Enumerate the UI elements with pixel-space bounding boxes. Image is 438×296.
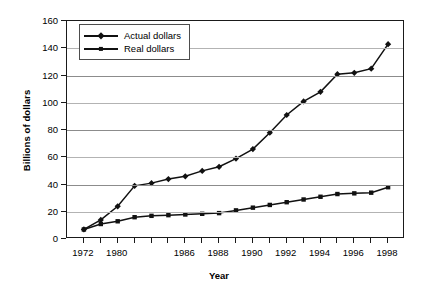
data-point-marker	[182, 173, 188, 179]
x-axis-title: Year	[0, 270, 438, 281]
x-tick-mark	[353, 238, 354, 243]
gridline	[67, 157, 403, 158]
series-line	[84, 44, 388, 229]
gridline	[67, 76, 403, 77]
legend-label: Real dollars	[124, 43, 174, 54]
x-tick-mark	[336, 238, 337, 243]
data-point-marker	[335, 192, 339, 196]
x-tick-mark	[269, 238, 270, 243]
data-point-marker	[285, 200, 289, 204]
y-tick-label: 100	[6, 96, 58, 107]
y-tick-label: 80	[6, 124, 58, 135]
data-point-marker	[386, 185, 390, 189]
x-tick-label: 1998	[377, 247, 398, 258]
x-tick-label: 1980	[106, 247, 127, 258]
data-point-marker	[369, 190, 373, 194]
x-tick-mark	[303, 238, 304, 243]
x-tick-mark	[370, 238, 371, 243]
x-tick-mark	[83, 238, 84, 243]
gridline	[67, 130, 403, 131]
data-point-marker	[165, 176, 171, 182]
gridline	[67, 103, 403, 104]
y-tick-label: 40	[6, 178, 58, 189]
chart-legend: Actual dollars Real dollars	[79, 24, 190, 60]
legend-item-actual-dollars: Actual dollars	[84, 29, 181, 42]
y-tick-label: 160	[6, 15, 58, 26]
data-point-marker	[199, 168, 205, 174]
x-tick-mark	[252, 238, 253, 243]
x-tick-mark	[320, 238, 321, 243]
data-point-marker	[183, 212, 187, 216]
x-axis-tick-labels: 197219801986198819901992199419961998	[0, 247, 438, 261]
y-tick-label: 120	[6, 69, 58, 80]
x-tick-label: 1996	[343, 247, 364, 258]
x-tick-label: 1990	[241, 247, 262, 258]
data-point-marker	[116, 219, 120, 223]
x-tick-mark	[387, 238, 388, 243]
data-point-marker	[318, 195, 322, 199]
x-tick-label: 1986	[174, 247, 195, 258]
x-tick-label: 1992	[275, 247, 296, 258]
gridline	[67, 212, 403, 213]
data-point-marker	[352, 191, 356, 195]
gridline	[67, 185, 403, 186]
legend-item-real-dollars: Real dollars	[84, 42, 181, 55]
data-point-marker	[268, 203, 272, 207]
data-point-marker	[99, 222, 103, 226]
data-point-marker	[82, 227, 86, 231]
x-tick-mark	[201, 238, 202, 243]
x-tick-mark	[235, 238, 236, 243]
x-tick-mark	[100, 238, 101, 243]
y-tick-label: 20	[6, 205, 58, 216]
x-tick-mark	[151, 238, 152, 243]
data-point-marker	[149, 214, 153, 218]
data-point-marker	[251, 205, 255, 209]
x-tick-mark	[134, 238, 135, 243]
data-point-marker	[132, 215, 136, 219]
legend-label: Actual dollars	[124, 30, 181, 41]
x-tick-label: 1972	[72, 247, 93, 258]
legend-diamond-marker-icon	[84, 30, 118, 41]
data-point-marker	[216, 164, 222, 170]
legend-square-marker-icon	[84, 43, 118, 54]
y-tick-label: 140	[6, 42, 58, 53]
x-tick-mark	[117, 238, 118, 243]
x-tick-mark	[184, 238, 185, 243]
x-tick-mark	[218, 238, 219, 243]
chart-figure: Billions of dollars 02040608010012014016…	[0, 0, 438, 296]
y-axis-ticks: 020406080100120140160	[0, 20, 66, 238]
x-tick-mark	[167, 238, 168, 243]
y-tick-label: 0	[6, 233, 58, 244]
x-axis-ticks	[66, 238, 404, 246]
x-tick-label: 1994	[309, 247, 330, 258]
data-point-marker	[166, 213, 170, 217]
y-tick-label: 60	[6, 151, 58, 162]
x-tick-mark	[286, 238, 287, 243]
x-tick-label: 1988	[208, 247, 229, 258]
data-point-marker	[301, 197, 305, 201]
